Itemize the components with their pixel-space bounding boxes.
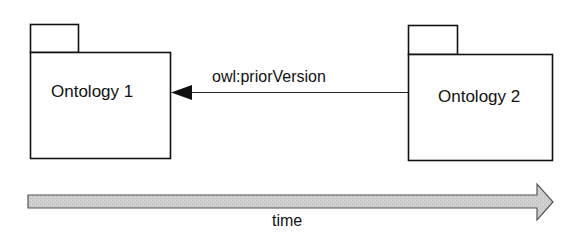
package-label-ontology-2: Ontology 2 — [438, 87, 520, 107]
package-label-ontology-1: Ontology 1 — [51, 82, 133, 102]
timeline-label: time — [272, 212, 302, 230]
package-body — [409, 55, 553, 161]
package-tab — [31, 25, 79, 53]
relation-label: owl:priorVersion — [212, 68, 326, 86]
diagram-canvas — [0, 0, 581, 245]
arrowhead-icon — [171, 85, 192, 100]
prior-version-connector[interactable] — [171, 85, 408, 100]
package-tab — [409, 26, 458, 55]
package-body — [31, 53, 171, 159]
